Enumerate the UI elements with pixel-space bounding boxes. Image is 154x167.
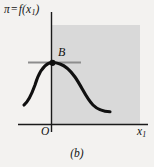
y-axis-label-function: f(x xyxy=(19,3,32,15)
figure-caption: (b) xyxy=(0,148,154,160)
y-axis-label: π=f(x1) xyxy=(4,4,40,17)
origin-label: O xyxy=(41,126,50,138)
x-axis-label-subscript: 1 xyxy=(142,130,146,139)
point-b-marker xyxy=(49,60,55,66)
y-axis-label-close: ) xyxy=(36,3,40,15)
point-b-label: B xyxy=(58,46,66,58)
plot-area xyxy=(0,0,154,167)
y-axis-label-equals: = xyxy=(10,3,19,15)
x-axis-label: x1 xyxy=(137,126,147,139)
figure-panel-b: π=f(x1) B O x1 (b) xyxy=(0,0,154,167)
